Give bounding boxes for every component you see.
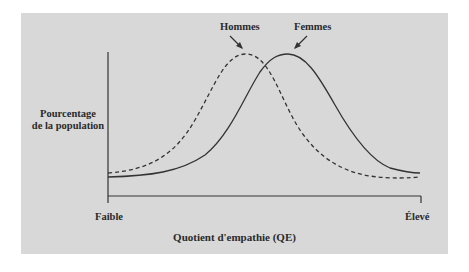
legend-hommes: Hommes bbox=[220, 21, 260, 33]
arrow-femmes-icon bbox=[294, 36, 307, 49]
series-hommes-curve bbox=[108, 54, 420, 178]
x-tick-high: Élevé bbox=[405, 211, 430, 223]
y-axis-label: Pourcentage de la population bbox=[30, 108, 106, 132]
x-tick-low: Faible bbox=[95, 211, 123, 223]
y-axis-label-line2: de la population bbox=[30, 120, 106, 132]
series-femmes-curve bbox=[108, 54, 420, 177]
x-axis-label: Quotient d'empathie (QE) bbox=[0, 231, 469, 243]
arrow-hommes-icon bbox=[230, 36, 243, 49]
y-axis-label-line1: Pourcentage bbox=[30, 108, 106, 120]
legend-femmes: Femmes bbox=[294, 21, 331, 33]
